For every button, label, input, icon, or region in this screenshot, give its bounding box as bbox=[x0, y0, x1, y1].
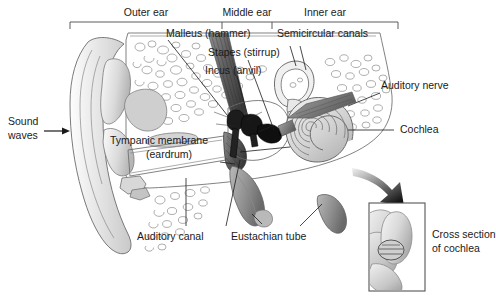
region-label-middle-ear: Middle ear bbox=[222, 6, 272, 18]
label-eustachian-tube: Eustachian tube bbox=[231, 230, 306, 242]
curved-down-arrow-icon bbox=[352, 168, 404, 206]
sound-arrow-icon bbox=[44, 128, 70, 135]
label-auditory-canal: Auditory canal bbox=[137, 230, 204, 242]
region-label-inner-ear: Inner ear bbox=[304, 6, 347, 18]
region-label-outer-ear: Outer ear bbox=[124, 6, 169, 18]
cross-section-of-cochlea-inset bbox=[357, 203, 425, 295]
label-auditory-nerve: Auditory nerve bbox=[381, 79, 449, 91]
diagram-canvas: Outer ear Middle ear Inner ear bbox=[0, 0, 496, 299]
tragus-cartilage bbox=[120, 176, 150, 200]
label-sound-waves-line2: waves bbox=[7, 129, 38, 141]
label-cross-section-line2: of cochlea bbox=[432, 242, 480, 254]
label-incus: Incus (anvil) bbox=[205, 64, 262, 76]
label-tympanic-membrane-line2: (eardrum) bbox=[146, 148, 192, 160]
eustachian-tube-distal bbox=[317, 194, 346, 233]
ear-anatomy-diagram: Outer ear Middle ear Inner ear bbox=[0, 0, 496, 299]
label-tympanic-membrane-line1: Tympanic membrane bbox=[110, 134, 208, 146]
label-semicircular-canals: Semicircular canals bbox=[277, 27, 368, 39]
label-cochlea: Cochlea bbox=[400, 123, 439, 135]
cochlear-duct-detail bbox=[378, 240, 404, 260]
label-stapes: Stapes (stirrup) bbox=[208, 46, 280, 58]
label-cross-section-line1: Cross section bbox=[432, 228, 496, 240]
ossicle-incus-long-process bbox=[250, 134, 258, 147]
label-sound-waves-line1: Sound bbox=[8, 115, 39, 127]
label-malleus: Malleus (hammer) bbox=[166, 27, 251, 39]
